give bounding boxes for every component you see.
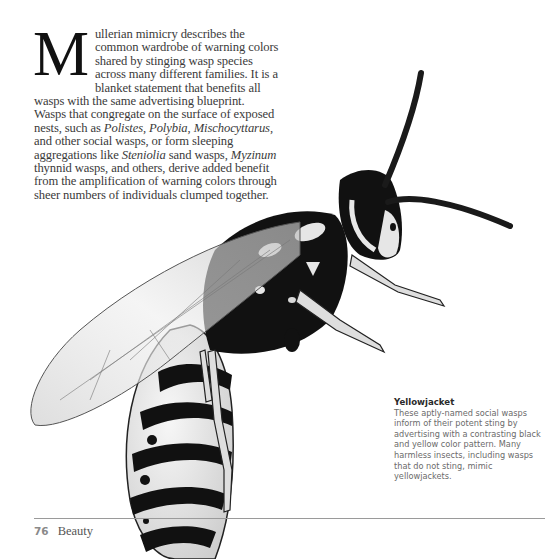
section-name: Beauty: [58, 524, 93, 539]
article-body: Mullerian mimicry describes the common w…: [34, 28, 279, 202]
footer-divider: [34, 518, 545, 519]
genus-polybia: Polybia: [149, 121, 187, 135]
genus-polistes: Polistes: [104, 121, 143, 135]
page-footer: 76 Beauty: [34, 524, 93, 539]
book-page: Mullerian mimicry describes the common w…: [0, 0, 545, 559]
article-tail: thynnid wasps, and others, derive added …: [34, 161, 277, 202]
drop-cap: M: [33, 30, 89, 82]
figure-caption: Yellowjacket These aptly-named social wa…: [394, 397, 544, 482]
genus-mischocyttarus: Mischocyttarus: [194, 121, 270, 135]
caption-title: Yellowjacket: [394, 397, 544, 408]
genus-myzinum: Myzinum: [231, 148, 276, 162]
page-number: 76: [34, 525, 49, 537]
genus-steniolia: Steniolia: [122, 148, 166, 162]
caption-text: These aptly-named social wasps inform of…: [394, 408, 544, 482]
article-mid-2: sand wasps,: [166, 148, 231, 162]
antennae: [385, 73, 510, 226]
head: [339, 170, 402, 260]
